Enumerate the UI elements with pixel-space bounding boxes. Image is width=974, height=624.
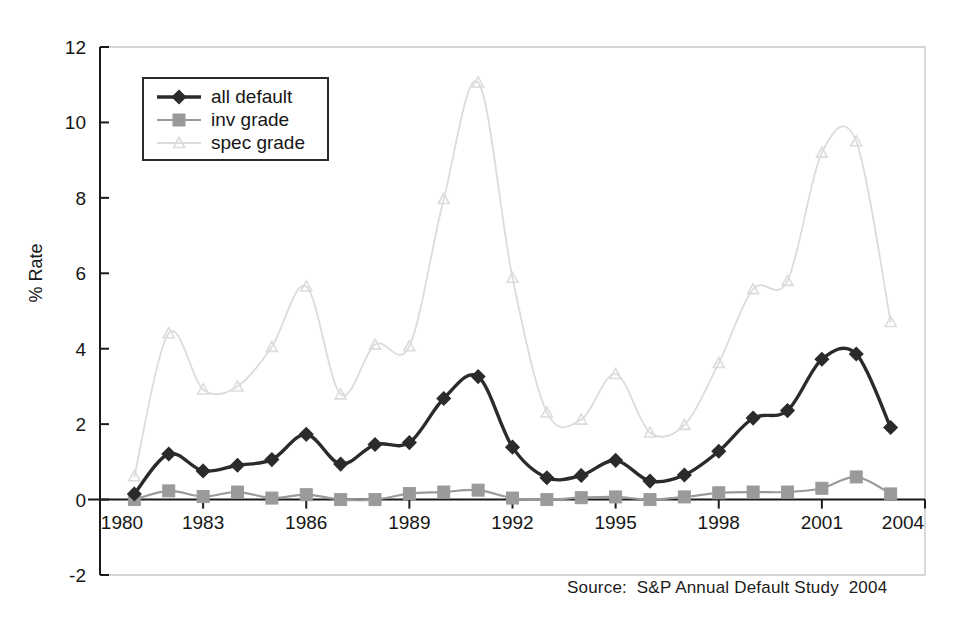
x-tick-label: 1995 bbox=[594, 512, 636, 533]
data-point-marker bbox=[232, 486, 244, 498]
y-tick-label: 12 bbox=[65, 37, 86, 58]
data-point-marker bbox=[266, 492, 278, 504]
y-tick-label: 10 bbox=[65, 112, 86, 133]
data-point-marker bbox=[369, 438, 382, 451]
x-tick-label: 2004 bbox=[882, 512, 925, 533]
y-axis-title: % Rate bbox=[26, 243, 46, 302]
data-point-marker bbox=[575, 492, 587, 504]
data-point-marker bbox=[369, 494, 381, 506]
data-point-marker bbox=[541, 494, 553, 506]
data-point-marker bbox=[231, 459, 244, 472]
data-point-marker bbox=[678, 469, 691, 482]
data-point-marker bbox=[678, 491, 690, 503]
data-point-marker bbox=[782, 486, 794, 498]
data-point-marker bbox=[472, 484, 484, 496]
data-point-marker bbox=[507, 492, 519, 504]
y-tick-label: 4 bbox=[75, 339, 86, 360]
y-tick-label: 6 bbox=[75, 263, 86, 284]
x-tick-label: 2001 bbox=[801, 512, 843, 533]
y-tick-label: 2 bbox=[75, 414, 86, 435]
data-point-marker bbox=[335, 494, 347, 506]
data-point-marker bbox=[609, 454, 622, 467]
data-point-marker bbox=[747, 486, 759, 498]
data-point-marker bbox=[300, 489, 312, 501]
data-point-marker bbox=[438, 486, 450, 498]
y-tick-label: 0 bbox=[75, 490, 86, 511]
y-tick-label: 8 bbox=[75, 188, 86, 209]
data-point-marker bbox=[163, 485, 175, 497]
series-all-default bbox=[128, 347, 897, 500]
data-point-marker bbox=[197, 491, 209, 503]
legend: all defaultinv gradespec grade bbox=[143, 78, 328, 160]
legend-item-label: spec grade bbox=[211, 132, 305, 153]
x-tick-label: 1980 bbox=[101, 512, 143, 533]
data-point-marker bbox=[575, 469, 588, 482]
legend-marker-square-icon bbox=[173, 114, 185, 126]
x-tick-label: 1989 bbox=[388, 512, 430, 533]
data-point-marker bbox=[197, 464, 210, 477]
chart-figure: -202468101219801983198619891992199519982… bbox=[0, 0, 974, 624]
x-tick-label: 1983 bbox=[182, 512, 224, 533]
data-point-marker bbox=[403, 488, 415, 500]
data-point-marker bbox=[713, 487, 725, 499]
data-point-marker bbox=[816, 482, 828, 494]
data-point-marker bbox=[610, 491, 622, 503]
x-tick-label: 1998 bbox=[698, 512, 740, 533]
data-point-marker bbox=[644, 494, 656, 506]
x-tick-label: 1986 bbox=[285, 512, 327, 533]
default-rate-line-chart: -202468101219801983198619891992199519982… bbox=[0, 0, 974, 624]
data-point-marker bbox=[644, 475, 657, 488]
data-point-marker bbox=[300, 428, 313, 441]
y-axis-ticks: -2024681012 bbox=[65, 37, 109, 586]
data-point-marker bbox=[885, 488, 897, 500]
data-point-marker bbox=[884, 421, 897, 434]
source-note: Source: S&P Annual Default Study 2004 bbox=[567, 578, 887, 598]
series-line bbox=[134, 348, 890, 494]
data-point-marker bbox=[540, 471, 553, 484]
legend-item-label: inv grade bbox=[211, 109, 289, 130]
data-point-marker bbox=[334, 458, 347, 471]
x-tick-label: 1992 bbox=[491, 512, 533, 533]
data-point-marker bbox=[850, 471, 862, 483]
legend-item-label: all default bbox=[211, 86, 293, 107]
y-tick-label: -2 bbox=[69, 565, 86, 586]
